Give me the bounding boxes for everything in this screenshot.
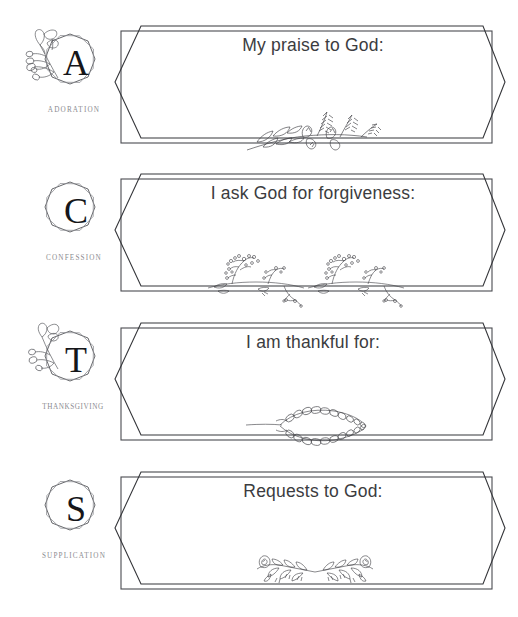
- prayer-worksheet-sheet: A ADORATION My praise to God:: [0, 0, 518, 617]
- section-heading: I ask God for forgiveness:: [118, 183, 508, 204]
- badge-thanksgiving: T THANKSGIVING: [14, 317, 122, 429]
- floral-mirror: [308, 255, 404, 308]
- floral-divider-rose: [251, 545, 379, 601]
- acts-section-confession: C CONFESSION I ask God for forgiveness:: [0, 154, 518, 302]
- badge-label: THANKSGIVING: [14, 403, 122, 411]
- section-heading: Requests to God:: [118, 481, 508, 502]
- badge-supplication: S SUPPLICATION: [14, 466, 122, 578]
- badge-label: CONFESSION: [14, 254, 122, 262]
- badge-letter: S: [14, 466, 122, 552]
- badge-letter: A: [14, 20, 122, 106]
- badge-letter: T: [14, 317, 122, 403]
- floral-divider-babysbreath: [206, 248, 406, 308]
- acts-section-thanksgiving: T THANKSGIVING I am thankful for:: [0, 303, 518, 451]
- section-heading: My praise to God:: [118, 35, 508, 56]
- badge-label: ADORATION: [14, 106, 122, 114]
- section-heading: I am thankful for:: [118, 332, 508, 353]
- floral-divider-wheat: [243, 104, 383, 156]
- acts-section-adoration: A ADORATION My praise to God:: [0, 6, 518, 154]
- badge-letter: C: [14, 168, 122, 254]
- floral-divider-eucalyptus: [246, 403, 378, 451]
- badge-label: SUPPLICATION: [14, 552, 122, 560]
- badge-adoration: A ADORATION: [14, 20, 122, 132]
- floral-mirror: [315, 556, 373, 583]
- badge-confession: C CONFESSION: [14, 168, 122, 280]
- acts-section-supplication: S SUPPLICATION Requests to God:: [0, 452, 518, 600]
